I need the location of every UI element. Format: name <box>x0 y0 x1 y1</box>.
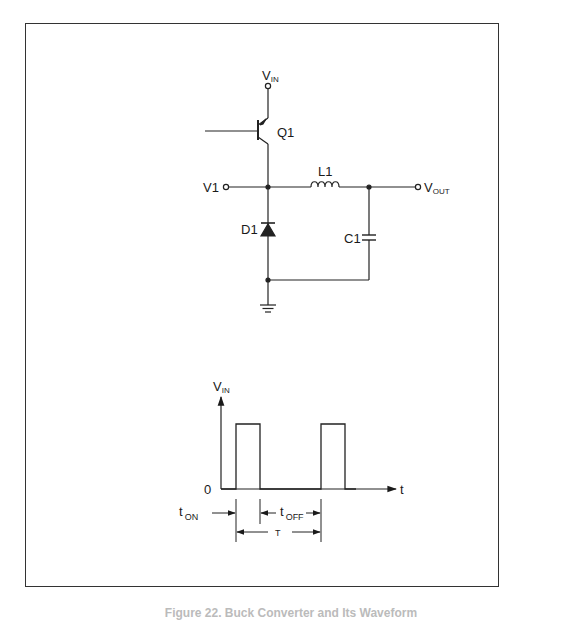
c1-capacitor-icon <box>362 235 376 240</box>
ground-icon <box>260 305 276 312</box>
figure-caption: Figure 22. Buck Converter and Its Wavefo… <box>0 606 582 620</box>
d1-label: D1 <box>241 222 258 237</box>
pulse-train <box>221 424 356 489</box>
t-off-label: tOFF <box>280 504 304 522</box>
c1-label: C1 <box>344 231 361 246</box>
d1-diode-icon <box>261 223 275 236</box>
q1-label: Q1 <box>277 125 294 140</box>
buck-converter-schematic <box>205 83 421 312</box>
schematic-labels: VIN Q1 V1 L1 VOUT D1 C1 <box>203 68 450 246</box>
l1-label: L1 <box>318 164 332 179</box>
vin-terminal <box>265 83 270 88</box>
waveform-labels: VIN t 0 tON tOFF T <box>179 379 404 538</box>
vin-label: VIN <box>262 68 279 84</box>
q1-transistor-icon <box>205 118 268 187</box>
v1-label: V1 <box>203 180 219 195</box>
vout-label: VOUT <box>424 180 450 196</box>
y-axis-label: VIN <box>213 379 230 395</box>
l1-inductor-icon <box>311 182 339 187</box>
x-axis-label: t <box>400 482 404 497</box>
v1-terminal <box>223 184 228 189</box>
vout-terminal <box>415 184 420 189</box>
t-on-label: tON <box>179 504 198 522</box>
pwm-waveform <box>212 397 396 542</box>
origin-label: 0 <box>204 482 211 497</box>
period-label: T <box>275 528 281 538</box>
